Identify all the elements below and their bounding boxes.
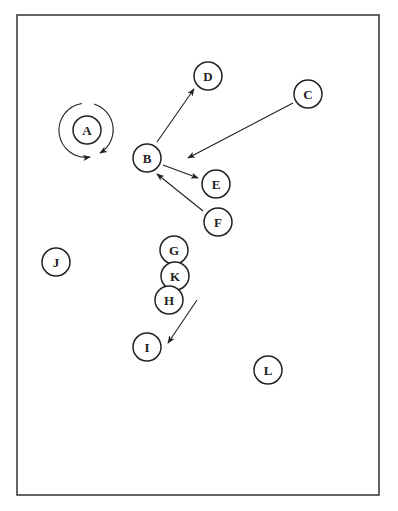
- edge-f-to-b-arrow: [157, 174, 203, 211]
- edge-c-to-b-arrow: [188, 103, 293, 158]
- node-e: E: [202, 170, 230, 198]
- node-label: G: [169, 243, 179, 258]
- node-label: K: [170, 269, 181, 284]
- node-f: F: [204, 208, 232, 236]
- diagram-canvas: ABCDEFGKHIJL: [0, 0, 398, 511]
- node-j: J: [42, 248, 70, 276]
- node-h: H: [155, 286, 183, 314]
- node-label: L: [264, 363, 273, 378]
- node-l: L: [254, 356, 282, 384]
- node-b: B: [133, 144, 161, 172]
- node-label: B: [143, 151, 152, 166]
- node-label: E: [212, 177, 221, 192]
- node-label: A: [82, 123, 92, 138]
- diagram-frame: [17, 15, 379, 495]
- edge-b-to-d-arrow: [157, 89, 194, 142]
- node-i: I: [133, 333, 161, 361]
- edge-b-to-e-arrow: [163, 165, 198, 178]
- node-d: D: [194, 62, 222, 90]
- node-label: H: [164, 293, 174, 308]
- node-label: C: [303, 87, 312, 102]
- node-c: C: [294, 80, 322, 108]
- node-label: J: [53, 255, 60, 270]
- node-label: F: [214, 215, 222, 230]
- node-label: D: [203, 69, 212, 84]
- node-g: G: [160, 236, 188, 264]
- node-label: I: [144, 340, 149, 355]
- node-a: A: [73, 116, 101, 144]
